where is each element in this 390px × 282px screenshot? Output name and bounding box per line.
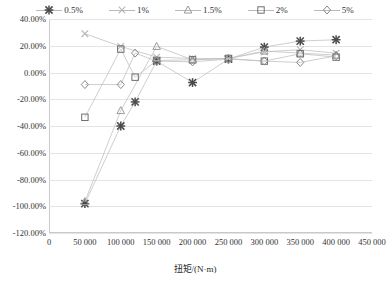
triangle-marker (184, 6, 192, 13)
x-axis-tick-label: 150 000 (143, 238, 171, 247)
legend-item-5%[interactable]: 5% (314, 6, 354, 15)
legend-label: 1% (137, 6, 149, 15)
x-axis-tick-label: 100 000 (107, 238, 135, 247)
x-axis-title: 扭矩/(N·m) (0, 262, 390, 275)
legend-label: 5% (342, 6, 354, 15)
legend-label: 1.5% (203, 6, 222, 15)
y-axis-tick-label: -40.00% (0, 122, 46, 131)
chart-container: 0.5%1%1.5%2%5% 40.00%20.00%0.00%-20.00%-… (0, 0, 390, 282)
diamond-marker (323, 6, 330, 14)
star-marker (332, 35, 341, 44)
x-marker (82, 30, 89, 37)
legend-item-1%[interactable]: 1% (109, 6, 149, 15)
x-axis-tick-label: 250 000 (215, 238, 243, 247)
chart-legend: 0.5%1%1.5%2%5% (0, 2, 390, 18)
x-axis-tick-label: 0 (47, 238, 51, 247)
series-2% (82, 46, 340, 121)
legend-item-2%[interactable]: 2% (248, 6, 288, 15)
star-marker (296, 37, 305, 46)
star-marker (188, 78, 197, 87)
series-1-5% (81, 42, 340, 204)
star-marker (131, 98, 140, 107)
x-axis-tick-label: 400 000 (322, 238, 350, 247)
y-axis-tick-label: -80.00% (0, 176, 46, 185)
series-5% (81, 49, 339, 88)
legend-label: 2% (276, 6, 288, 15)
series-0-5% (80, 35, 340, 208)
y-axis-tick-label: -60.00% (0, 149, 46, 158)
star-marker (36, 10, 62, 11)
x-axis-tick-label: 50 000 (73, 238, 96, 247)
series-line (85, 53, 336, 84)
x-marker (119, 7, 126, 14)
star-marker (116, 122, 125, 131)
x-axis-tick-label: 200 000 (179, 238, 207, 247)
x-axis-tick-label: 450 000 (358, 238, 386, 247)
square-marker (248, 10, 274, 11)
gridline (49, 233, 372, 234)
triangle-marker (175, 10, 201, 11)
legend-label: 0.5% (64, 6, 83, 15)
x-marker (109, 10, 135, 11)
legend-item-1-5%[interactable]: 1.5% (175, 6, 222, 15)
plot-area (49, 19, 372, 233)
y-axis-tick-label: -100.00% (0, 202, 46, 211)
diamond-marker (314, 10, 340, 11)
y-axis-tick-label: 0.00% (0, 69, 46, 78)
y-axis-tick-label: 20.00% (0, 42, 46, 51)
x-axis-tick-label: 350 000 (286, 238, 314, 247)
y-axis-tick-label: -20.00% (0, 95, 46, 104)
square-marker (258, 7, 264, 13)
series-layer (49, 19, 372, 233)
triangle-marker (153, 42, 161, 49)
y-axis-tick-label: 40.00% (0, 15, 46, 24)
star-marker (45, 6, 54, 15)
x-axis-tick-label: 300 000 (251, 238, 279, 247)
y-axis-tick-label: -120.00% (0, 229, 46, 238)
